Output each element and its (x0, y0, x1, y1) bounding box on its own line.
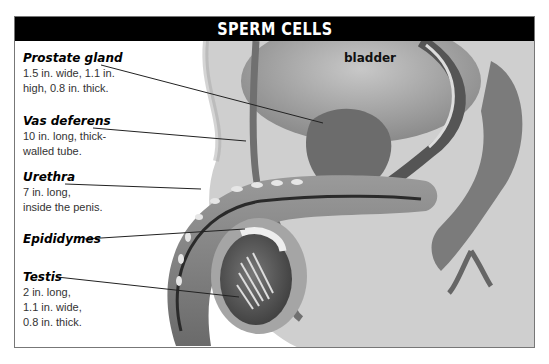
diagram-frame: SPERM CELLS bladder Prostate gland 1.5 i… (14, 16, 535, 348)
callout-desc: 1.5 in. wide, 1.1 in. high, 0.8 in. thic… (23, 66, 123, 96)
callout-desc: 10 in. long, thick- walled tube. (23, 129, 111, 159)
page-title: SPERM CELLS (217, 17, 332, 41)
callout-title: Testis (23, 270, 82, 285)
callout-desc: 7 in. long, inside the penis. (23, 185, 103, 215)
callout-urethra: Urethra 7 in. long, inside the penis. (23, 170, 103, 215)
callout-testis: Testis 2 in. long, 1.1 in. wide, 0.8 in.… (23, 270, 82, 330)
callout-desc: 2 in. long, 1.1 in. wide, 0.8 in. thick. (23, 285, 82, 330)
callout-epididymes: Epididymes (23, 232, 101, 247)
callout-title: Prostate gland (23, 51, 123, 66)
callout-title: Vas deferens (23, 114, 111, 129)
callout-vas-deferens: Vas deferens 10 in. long, thick- walled … (23, 114, 111, 159)
callout-title: Epididymes (23, 232, 101, 247)
title-bar: SPERM CELLS (15, 17, 534, 41)
callout-title: Urethra (23, 170, 103, 185)
callout-prostate-gland: Prostate gland 1.5 in. wide, 1.1 in. hig… (23, 51, 123, 96)
